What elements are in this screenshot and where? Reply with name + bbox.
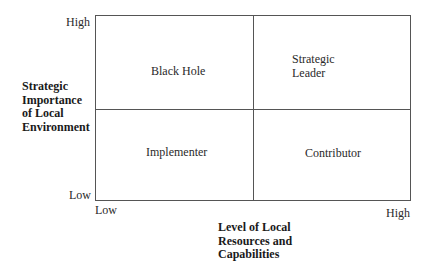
x-axis-title-line: Level of Local [218, 221, 292, 235]
x-axis-low-label: Low [95, 204, 117, 217]
y-axis-high-label: High [66, 16, 90, 29]
horizontal-divider [96, 109, 410, 110]
quadrant-contributor: Contributor [305, 146, 361, 160]
y-axis-title-line: Strategic [22, 80, 90, 94]
x-axis-title-line: Resources and [218, 235, 292, 249]
y-axis-title-line: Environment [22, 121, 90, 135]
quadrant-grid: Black Hole Strategic Leader Implementer … [95, 15, 411, 201]
quadrant-strategic-leader: Strategic Leader [292, 52, 335, 80]
x-axis-title-line: Capabilities [218, 248, 292, 262]
y-axis-title-line: of Local [22, 107, 90, 121]
y-axis-title-line: Importance [22, 94, 90, 108]
y-axis-low-label: Low [69, 189, 91, 202]
quadrant-black-hole: Black Hole [151, 64, 205, 78]
vertical-divider [253, 16, 254, 200]
y-axis-title: Strategic Importance of Local Environmen… [22, 80, 90, 134]
quadrant-implementer: Implementer [146, 145, 207, 159]
x-axis-title: Level of Local Resources and Capabilitie… [218, 221, 292, 262]
x-axis-high-label: High [386, 207, 410, 220]
quadrant-label-line: Leader [292, 66, 335, 80]
quadrant-label-line: Strategic [292, 52, 335, 66]
